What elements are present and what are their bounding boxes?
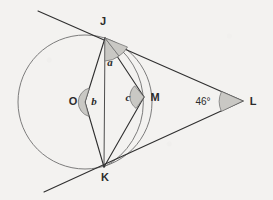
- angle-label-l-46: 46°: [195, 96, 210, 107]
- angle-label-a: a: [107, 56, 113, 68]
- geometry-figure: J K O M L a b c 46°: [0, 0, 273, 200]
- tangent-line-lower: [44, 101, 243, 192]
- point-label-l: L: [250, 95, 257, 107]
- point-label-k: K: [101, 171, 109, 183]
- geometry-canvas: J K O M L a b c 46°: [0, 0, 273, 200]
- point-label-o: O: [69, 95, 78, 107]
- point-label-m: M: [150, 91, 159, 103]
- angle-arc-l: [219, 92, 243, 112]
- angle-label-b: b: [91, 95, 97, 107]
- angle-arc-b: [78, 88, 89, 116]
- point-label-j: J: [100, 15, 106, 27]
- angle-label-c: c: [126, 91, 131, 103]
- tangent-line-upper: [38, 11, 243, 101]
